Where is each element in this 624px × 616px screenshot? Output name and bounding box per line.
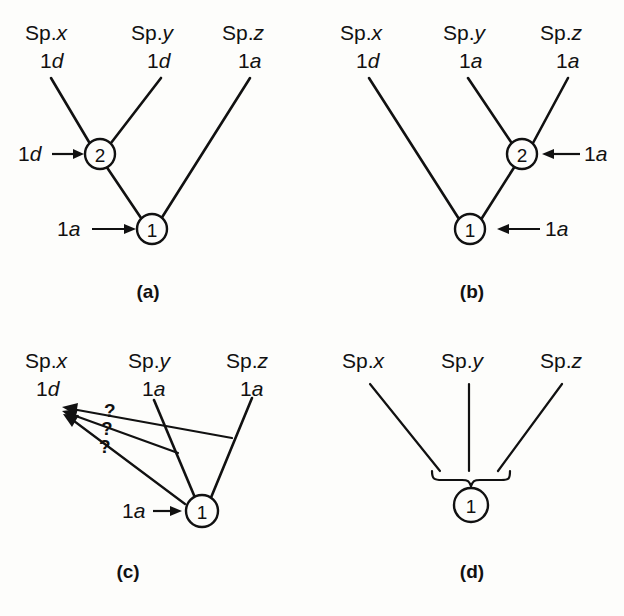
panel-a-node-1-label: 1 [147,220,158,241]
panel-a-branch-sp-z [161,78,250,219]
panel-b-branch-sp-z [533,78,568,143]
panel-d-node-1-label: 1 [466,496,477,517]
panel-c-query-mark-3: ? [99,436,111,457]
panel-b-node-2-label: 2 [517,145,528,166]
panel-d: Sp.x Sp.y Sp.z 1 (d) [312,308,624,616]
panel-a: Sp.x 1d Sp.y 1d Sp.z 1a 2 1 1d 1a (a) [0,0,312,308]
panel-a-node-2-label: 2 [95,145,106,166]
panel-d-taxon-z-label: Sp.z [540,349,583,372]
panel-a-state-x: 1d [40,49,65,72]
panel-c-node-1-label: 1 [197,502,208,523]
panel-a-branch-sp-y [111,78,161,143]
panel-b-state-x: 1d [356,49,381,72]
panel-c-state-x: 1d [36,377,61,400]
panel-d-branch-sp-x [370,384,440,471]
panel-a-state-z: 1a [238,49,261,72]
panel-a-annotation-1d: 1d [18,142,43,165]
panel-a-caption: (a) [136,281,159,302]
panel-a-arrowhead-node-1-icon [124,224,136,234]
panel-c-caption: (c) [116,561,139,582]
panel-d-caption: (d) [460,561,484,582]
panel-b-state-y: 1a [459,49,482,72]
panel-b-branch-sp-y [468,78,511,142]
panel-c-branch-sp-z [210,398,252,500]
phylogenetic-figure: Sp.x 1d Sp.y 1d Sp.z 1a 2 1 1d 1a (a) Sp… [0,0,624,616]
panel-c: Sp.x 1d Sp.y 1a Sp.z 1a ? ? ? 1 1a (c) [0,308,312,616]
panel-b-branch-node2-node1 [482,166,515,218]
panel-c-arrowhead-node-1-icon [170,506,182,516]
panel-b-branch-sp-x [369,78,459,219]
panel-b-annotation-node1-1a: 1a [545,217,568,240]
panel-a-taxon-x-label: Sp.x [25,21,69,44]
panel-b-taxon-y-label: Sp.y [443,21,487,44]
panel-d-taxon-x-label: Sp.x [342,349,386,372]
panel-d-taxon-y-label: Sp.y [441,349,485,372]
panel-c-taxon-y-label: Sp.y [128,349,172,372]
panel-a-arrowhead-node-2-icon [73,149,84,159]
panel-c-taxon-x-label: Sp.x [25,349,69,372]
panel-a-annotation-1a: 1a [57,217,80,240]
panel-c-state-z: 1a [240,377,263,400]
panel-d-branch-sp-z [498,384,562,471]
panel-b: Sp.x 1d Sp.y 1a Sp.z 1a 2 1 1a 1a (b) [312,0,624,308]
panel-a-taxon-y-label: Sp.y [131,21,175,44]
panel-c-taxon-z-label: Sp.z [226,349,269,372]
panel-a-branch-node2-node1 [106,166,141,218]
panel-b-state-z: 1a [556,49,579,72]
panel-c-annotation-1a: 1a [122,499,145,522]
panel-b-taxon-z-label: Sp.z [540,21,583,44]
panel-a-state-y: 1d [147,49,172,72]
panel-a-branch-sp-x [51,78,89,142]
panel-b-arrowhead-node-1-icon [497,224,509,234]
panel-d-polytomy-brace [432,471,510,486]
panel-b-node-1-label: 1 [465,220,476,241]
panel-a-taxon-z-label: Sp.z [222,21,265,44]
panel-b-arrowhead-node-2-icon [542,149,554,159]
panel-b-caption: (b) [460,281,484,302]
panel-b-taxon-x-label: Sp.x [340,21,384,44]
panel-c-state-y: 1a [142,377,165,400]
panel-c-arrowhead-from-node-1-icon [63,414,79,427]
panel-b-annotation-node2-1a: 1a [584,142,607,165]
